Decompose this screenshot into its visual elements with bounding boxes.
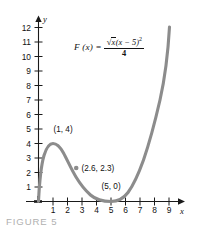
x-tick-labels: 1 2 3 4 5 6 7 8 9 xyxy=(51,205,172,215)
figure-caption: FIGURE 5 xyxy=(6,216,57,227)
y-axis-label: y xyxy=(42,14,47,24)
y-tick-label: 5 xyxy=(26,124,31,134)
formula-numerator: √x(x − 5)2 xyxy=(104,36,144,48)
y-tick-label: 12 xyxy=(22,23,32,33)
y-tick-label: 7 xyxy=(26,95,31,105)
y-tick-label: 3 xyxy=(26,153,31,163)
y-tick-labels: 1 2 3 4 5 6 7 8 9 10 11 12 xyxy=(22,23,32,193)
y-tick-label: 6 xyxy=(26,110,31,120)
x-tick-label: 3 xyxy=(80,205,85,215)
numerator-rest: (x − 5) xyxy=(116,38,139,47)
radicand: x xyxy=(111,37,116,47)
x-axis-arrow-icon xyxy=(178,198,185,204)
x-tick-label: 6 xyxy=(123,205,128,215)
figure-container: 1 2 3 4 5 6 7 8 9 10 11 12 1 2 3 4 5 6 7… xyxy=(0,0,198,236)
y-tick-label: 4 xyxy=(26,139,31,149)
radical-icon: √x xyxy=(106,39,115,48)
y-tick-label: 1 xyxy=(26,182,31,192)
x-tick-label: 1 xyxy=(51,205,56,215)
annotation-label-inflection: (2.6, 2.3) xyxy=(82,164,115,173)
x-tick-label: 7 xyxy=(138,205,143,215)
formula-denominator: 4 xyxy=(120,49,128,58)
y-tick-label: 11 xyxy=(22,37,31,47)
numerator-exponent: 2 xyxy=(139,36,142,42)
x-tick-label: 2 xyxy=(65,205,70,215)
data-point-marker xyxy=(74,166,79,171)
y-axis-arrow-icon xyxy=(35,16,41,23)
x-tick-label: 5 xyxy=(109,205,114,215)
annotation-label-root: (5, 0) xyxy=(102,182,121,191)
x-tick-label: 8 xyxy=(152,205,157,215)
annotation-label-peak: (1, 4) xyxy=(54,125,73,134)
y-tick-label: 10 xyxy=(22,52,32,62)
y-tick-label: 2 xyxy=(26,168,31,178)
x-tick-label: 9 xyxy=(167,205,172,215)
y-tick-label: 8 xyxy=(26,81,31,91)
formula-fraction: √x(x − 5)2 4 xyxy=(104,36,144,58)
formula-function-name: F (x) xyxy=(74,42,93,52)
x-axis-label: x xyxy=(179,206,184,216)
formula-expression: F (x) = √x(x − 5)2 4 xyxy=(74,36,144,58)
formula-equals: = xyxy=(96,42,101,52)
x-tick-label: 4 xyxy=(94,205,99,215)
y-tick-label: 9 xyxy=(26,66,31,76)
